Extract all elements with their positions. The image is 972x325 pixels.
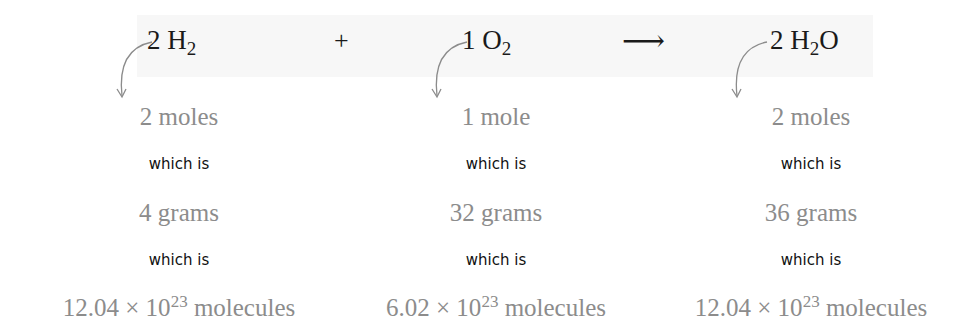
curved-arrow-icon: [110, 38, 155, 103]
molecules-o2: 6.02 × 1023 molecules: [331, 295, 661, 320]
curved-arrow-icon: [425, 38, 470, 103]
which-is-label: which is: [331, 253, 661, 268]
plus-sign: +: [334, 28, 349, 54]
grams-o2: 32 grams: [331, 200, 661, 225]
grams-h2o: 36 grams: [646, 200, 972, 225]
molecules-h2o: 12.04 × 1023 molecules: [646, 295, 972, 320]
which-is-label: which is: [14, 157, 344, 172]
moles-h2: 2 moles: [14, 104, 344, 129]
which-is-label: which is: [14, 253, 344, 268]
moles-h2o: 2 moles: [646, 104, 972, 129]
which-is-label: which is: [646, 253, 972, 268]
which-is-label: which is: [331, 157, 661, 172]
which-is-label: which is: [646, 157, 972, 172]
grams-h2: 4 grams: [14, 200, 344, 225]
reaction-arrow-icon: ⟶: [622, 26, 665, 56]
product-h2o: 2 H2O: [770, 27, 839, 54]
curved-arrow-icon: [725, 38, 770, 103]
moles-o2: 1 mole: [331, 104, 661, 129]
molecules-h2: 12.04 × 1023 molecules: [14, 295, 344, 320]
